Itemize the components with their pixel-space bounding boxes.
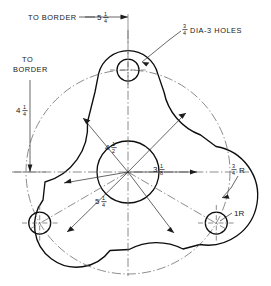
fillet-radius-suffix: R bbox=[239, 166, 245, 175]
to-border-left-num: 1 bbox=[23, 104, 26, 110]
to-border-left-value: 4 1 4 bbox=[16, 104, 28, 117]
bolt-circle-den: 2 bbox=[112, 148, 115, 154]
radial-dimension-spokes bbox=[64, 113, 197, 233]
holes-note-leader bbox=[142, 31, 181, 67]
fillet-radius-num: 3 bbox=[232, 163, 235, 169]
fillet-radius-dimension: 3 4 R bbox=[231, 163, 245, 176]
to-border-left-whole: 4 bbox=[16, 106, 21, 115]
to-border-top-den: 4 bbox=[104, 18, 107, 24]
technical-drawing-canvas: TO BORDER 5 1 4 TO BORDER 4 1 4 3 4 DIA-… bbox=[0, 0, 271, 286]
to-border-top-whole: 5 bbox=[97, 13, 102, 22]
holes-note-den: 4 bbox=[183, 30, 186, 36]
bolt-circle-num: 1 bbox=[112, 141, 115, 147]
bore-radius-num: 1 bbox=[160, 163, 163, 169]
bore-radius-whole: 3 bbox=[153, 165, 158, 174]
outer-radius-den: 4 bbox=[102, 202, 105, 208]
lobe-radius-dimension: 1R bbox=[234, 209, 244, 218]
to-border-left-dimension bbox=[14, 80, 46, 172]
fillet-radius-den: 4 bbox=[232, 170, 235, 176]
to-border-top-num: 1 bbox=[104, 11, 107, 17]
to-border-top-label: TO BORDER bbox=[28, 13, 77, 22]
holes-note: 3 4 DIA-3 HOLES bbox=[182, 23, 242, 36]
to-border-left-den: 4 bbox=[23, 111, 26, 117]
holes-note-num: 3 bbox=[183, 23, 186, 29]
bolt-circle-whole: 4 bbox=[105, 143, 110, 152]
outer-radius-num: 1 bbox=[102, 195, 105, 201]
plate-outline bbox=[35, 51, 258, 268]
bore-radius-den: 8 bbox=[160, 170, 163, 176]
outer-radius-dimension: 5 1 4 bbox=[95, 195, 107, 208]
drawing-svg: TO BORDER 5 1 4 TO BORDER 4 1 4 3 4 DIA-… bbox=[0, 0, 271, 286]
to-border-left-label-line2: BORDER bbox=[13, 65, 48, 74]
to-border-left-label-line1: TO bbox=[22, 55, 33, 64]
holes-note-text: DIA-3 HOLES bbox=[190, 26, 242, 35]
outer-radius-whole: 5 bbox=[95, 197, 100, 206]
